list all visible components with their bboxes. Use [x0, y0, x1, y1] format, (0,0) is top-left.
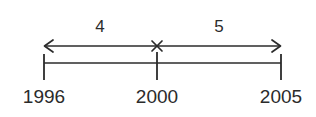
number-line-diagram: 4 5 1996 2000 2005 [0, 0, 316, 117]
interval-label-left: 4 [95, 17, 104, 36]
tick-label-2000: 2000 [136, 86, 178, 107]
tick-label-1996: 1996 [23, 86, 65, 107]
interval-label-right: 5 [214, 17, 223, 36]
number-line-canvas: 4 5 1996 2000 2005 [0, 0, 316, 117]
tick-label-2005: 2005 [260, 86, 302, 107]
